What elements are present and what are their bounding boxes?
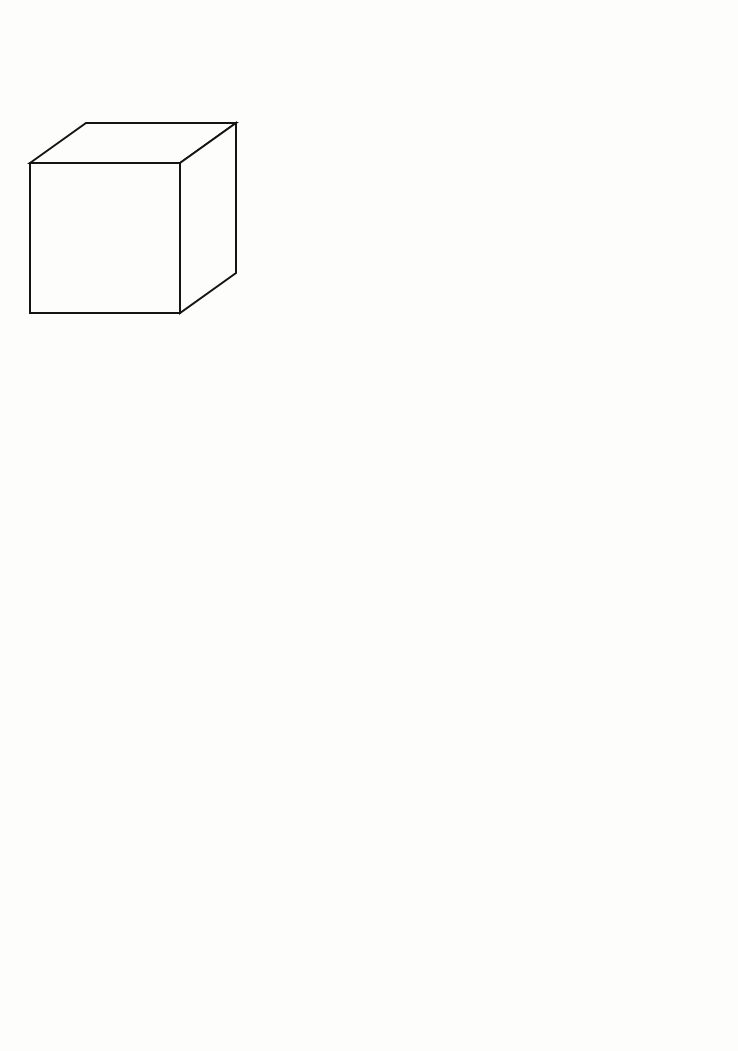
layer-front (30, 123, 236, 313)
geometric-artwork (0, 0, 738, 1051)
coloring-page-canvas (0, 0, 738, 1051)
corner-cube-front-face (30, 163, 180, 313)
